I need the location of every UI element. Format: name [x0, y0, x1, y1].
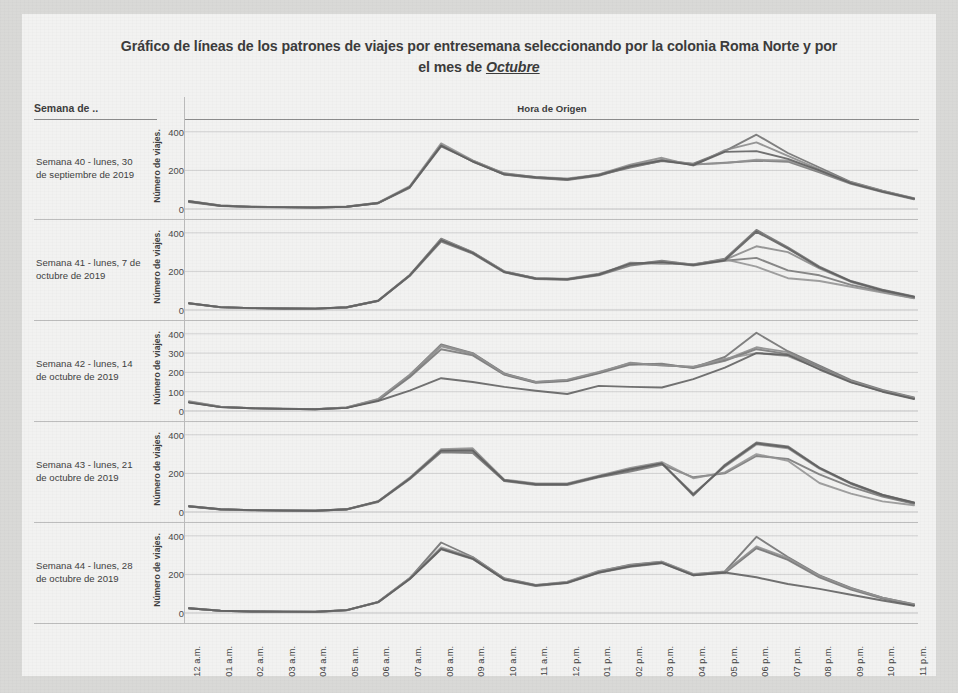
series-line: [189, 346, 914, 409]
panel-row: Semana 42 - lunes, 14 de octubre de 2019…: [34, 321, 918, 422]
series-line: [189, 548, 914, 612]
x-tick-label: 05 p.m.: [729, 646, 739, 677]
x-tick-label: 04 a.m.: [318, 646, 328, 677]
y-tick-label: 400: [168, 227, 184, 238]
y-tick-label: 200: [168, 266, 184, 277]
series-line: [189, 549, 914, 612]
x-tick-label: 04 p.m.: [697, 646, 707, 677]
series-line: [189, 333, 914, 409]
x-tick-label: 12 p.m.: [571, 646, 581, 677]
panel-row-label[interactable]: Semana 40 - lunes, 30 de septiembre de 2…: [34, 119, 144, 219]
panel-row: Semana 44 - lunes, 28 de octubre de 2019…: [34, 523, 918, 624]
y-tick-label: 200: [168, 367, 184, 378]
x-tick-label: 07 a.m.: [413, 646, 423, 677]
x-tick-label: 10 a.m.: [508, 646, 518, 677]
y-axis-ticks: 0100200300400: [158, 321, 184, 421]
series-line: [189, 547, 914, 612]
series-line: [189, 444, 914, 510]
dashboard-card: Gráfico de líneas de los patrones de via…: [22, 14, 936, 676]
panel-row-label[interactable]: Semana 41 - lunes, 7 de octubre de 2019: [34, 220, 144, 320]
x-tick-label: 03 p.m.: [665, 646, 675, 677]
x-tick-label: 07 p.m.: [792, 646, 802, 677]
series-line: [189, 242, 914, 309]
x-tick-label: 10 p.m.: [886, 646, 896, 677]
y-tick-label: 300: [168, 348, 184, 359]
series-line: [189, 546, 914, 611]
panel-row: Semana 43 - lunes, 21 de octubre de 2019…: [34, 422, 918, 523]
page-title: Gráfico de líneas de los patrones de via…: [32, 36, 926, 78]
x-tick-label: 08 a.m.: [445, 646, 455, 677]
x-tick-label: 06 p.m.: [760, 646, 770, 677]
y-tick-label: 200: [168, 468, 184, 479]
grid-header-row: Semana de .. Hora de Origen: [34, 97, 918, 119]
x-tick-label: 09 a.m.: [476, 646, 486, 677]
y-tick-label: 400: [168, 328, 184, 339]
y-axis-title: Número de viajes.: [144, 523, 158, 623]
y-tick-label: 100: [168, 386, 184, 397]
series-line: [189, 230, 914, 309]
x-tick-label: 12 a.m.: [192, 646, 202, 677]
x-tick-label: 01 a.m.: [224, 646, 234, 677]
x-tick-label: 06 a.m.: [381, 646, 391, 677]
panel-row-label[interactable]: Semana 44 - lunes, 28 de octubre de 2019: [34, 523, 144, 623]
y-axis-ticks: 0200400: [158, 119, 184, 219]
series-line: [189, 443, 914, 511]
x-tick-label: 02 p.m.: [634, 646, 644, 677]
y-axis-title: Número de viajes.: [144, 119, 158, 219]
x-tick-label: 01 p.m.: [602, 646, 612, 677]
x-tick-label: 05 a.m.: [350, 646, 360, 677]
column-dimension-header[interactable]: Hora de Origen: [184, 97, 919, 120]
y-axis-ticks: 0200400: [158, 220, 184, 320]
panel-row: Semana 41 - lunes, 7 de octubre de 2019N…: [34, 220, 918, 321]
x-tick-label: 02 a.m.: [255, 646, 265, 677]
panel-plot-area[interactable]: [184, 523, 918, 623]
series-line: [189, 135, 914, 208]
y-tick-label: 400: [168, 429, 184, 440]
series-line: [189, 241, 914, 309]
panel-row: Semana 40 - lunes, 30 de septiembre de 2…: [34, 119, 918, 220]
series-line: [189, 142, 914, 207]
title-line-1: Gráfico de líneas de los patrones de via…: [121, 38, 837, 54]
y-tick-label: 400: [168, 530, 184, 541]
y-tick-label: 400: [168, 126, 184, 137]
y-tick-label: 200: [168, 165, 184, 176]
y-axis-ticks: 0200400: [158, 422, 184, 522]
y-axis-title: Número de viajes.: [144, 422, 158, 522]
row-dimension-header[interactable]: Semana de ..: [34, 97, 157, 120]
series-line: [189, 232, 914, 309]
y-axis-title: Número de viajes.: [144, 321, 158, 421]
y-axis-title: Número de viajes.: [144, 220, 158, 320]
panel-row-label[interactable]: Semana 42 - lunes, 14 de octubre de 2019: [34, 321, 144, 421]
series-line: [189, 146, 914, 208]
x-tick-label: 11 a.m.: [539, 646, 549, 676]
title-line-2-prefix: el mes de: [418, 59, 486, 75]
scanned-page: Gráfico de líneas de los patrones de via…: [22, 14, 936, 676]
series-line: [189, 345, 914, 409]
panel-row-label[interactable]: Semana 43 - lunes, 21 de octubre de 2019: [34, 422, 144, 522]
x-tick-label: 09 p.m.: [855, 646, 865, 677]
y-axis-ticks: 0200400: [158, 523, 184, 623]
y-tick-label: 200: [168, 569, 184, 580]
panel-plot-area[interactable]: [184, 220, 918, 320]
series-line: [189, 444, 914, 511]
title-month-emphasis: Octubre: [486, 59, 540, 75]
series-line: [189, 452, 914, 511]
small-multiples-grid: Semana de .. Hora de Origen Semana 40 - …: [34, 97, 918, 642]
panel-list: Semana 40 - lunes, 30 de septiembre de 2…: [34, 119, 918, 624]
x-tick-label: 11 p.m.: [918, 646, 928, 676]
x-tick-label: 03 a.m.: [287, 646, 297, 677]
panel-plot-area[interactable]: [184, 321, 918, 421]
panel-plot-area[interactable]: [184, 119, 918, 219]
panel-plot-area[interactable]: [184, 422, 918, 522]
x-tick-label: 08 p.m.: [823, 646, 833, 677]
series-line: [189, 143, 914, 207]
